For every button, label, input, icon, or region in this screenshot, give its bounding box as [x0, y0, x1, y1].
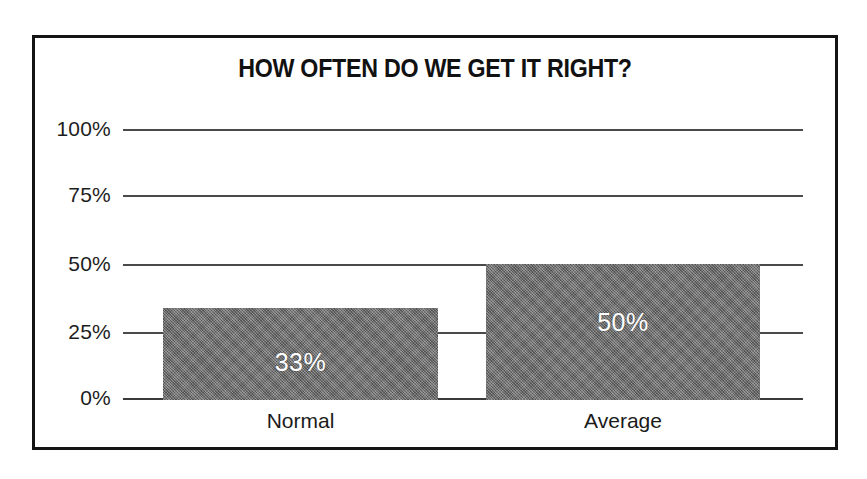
bar-average[interactable]: 50% [486, 264, 760, 400]
bar-category-label-average: Average [486, 409, 760, 433]
bar-value-normal: 33% [163, 348, 438, 377]
y-tick-label-100: 100% [56, 117, 123, 141]
y-tick-label-50: 50% [68, 252, 123, 276]
y-tick-label-75: 75% [68, 183, 123, 207]
bar-category-label-normal: Normal [163, 409, 438, 433]
y-tick-label-0: 0% [80, 386, 123, 410]
bar-column-normal: 33% Normal [163, 129, 438, 400]
chart-frame: HOW OFTEN DO WE GET IT RIGHT? 100% 75% 5… [32, 35, 838, 450]
y-tick-label-25: 25% [68, 320, 123, 344]
chart-title: HOW OFTEN DO WE GET IT RIGHT? [63, 54, 807, 83]
bar-column-average: 50% Average [486, 129, 760, 400]
bar-normal[interactable]: 33% [163, 308, 438, 400]
plot-area: 100% 75% 50% 25% 0% 33% Normal [123, 129, 803, 400]
bar-value-average: 50% [486, 308, 760, 337]
chart-page: HOW OFTEN DO WE GET IT RIGHT? 100% 75% 5… [0, 0, 867, 479]
